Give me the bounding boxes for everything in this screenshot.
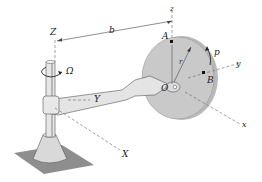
label-O: O — [161, 83, 169, 93]
label-omega: Ω — [65, 66, 74, 76]
label-B: B — [206, 75, 214, 85]
label-y: y — [235, 59, 241, 68]
label-p: p — [214, 47, 220, 57]
label-b: b — [109, 25, 115, 35]
collar — [43, 96, 59, 114]
diagram-canvas: Z z b A p y B r O Ω Y X x — [0, 0, 262, 182]
X-axis — [55, 108, 120, 150]
label-Z: Z — [49, 27, 57, 37]
point-A — [170, 40, 173, 43]
label-x: x — [242, 120, 247, 129]
label-A: A — [161, 31, 169, 41]
label-z: z — [169, 5, 174, 13]
base-cone — [33, 135, 67, 163]
point-B — [202, 71, 205, 74]
label-Y: Y — [94, 94, 101, 104]
label-X: X — [121, 149, 129, 159]
